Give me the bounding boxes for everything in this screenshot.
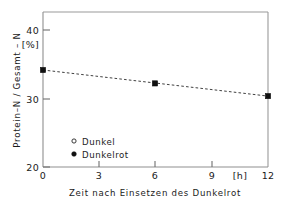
y-tick-label-40: 40 (26, 25, 39, 36)
x-axis-ticks (99, 161, 212, 167)
legend-marker-dunkelrot-icon (72, 152, 77, 157)
chart-legend: Dunkel Dunkelrot (72, 137, 129, 160)
data-point-12h (265, 94, 270, 99)
x-tick-label-0: 0 (40, 170, 46, 181)
y-tick-label-30: 30 (26, 94, 39, 105)
data-points-dunkelrot (40, 67, 270, 98)
data-point-0h (40, 67, 45, 72)
legend-label-dunkelrot: Dunkelrot (82, 150, 129, 160)
chart-canvas: 40 [%] 30 20 0 3 6 9 [h] 12 Zeit nach Ei… (0, 0, 287, 205)
x-tick-label-3: 3 (96, 170, 102, 181)
legend-marker-dunkel-icon (72, 139, 76, 143)
x-tick-label-6: 6 (152, 170, 158, 181)
y-axis-title: Protein–N / Gesamt – N (12, 32, 22, 147)
y-axis-unit-label: [%] (22, 39, 39, 50)
x-tick-label-9: 9 (209, 170, 215, 181)
x-axis-unit-label: [h] (233, 170, 247, 181)
legend-label-dunkel: Dunkel (82, 137, 115, 147)
plot-frame (43, 12, 268, 167)
x-axis-title: Zeit nach Einsetzen des Dunkelrot (69, 188, 241, 198)
y-tick-label-20: 20 (26, 162, 39, 173)
x-tick-label-12: 12 (262, 170, 275, 181)
y-axis-ticks (43, 30, 50, 167)
data-point-6h (152, 81, 157, 86)
chart-figure: 40 [%] 30 20 0 3 6 9 [h] 12 Zeit nach Ei… (0, 0, 287, 205)
